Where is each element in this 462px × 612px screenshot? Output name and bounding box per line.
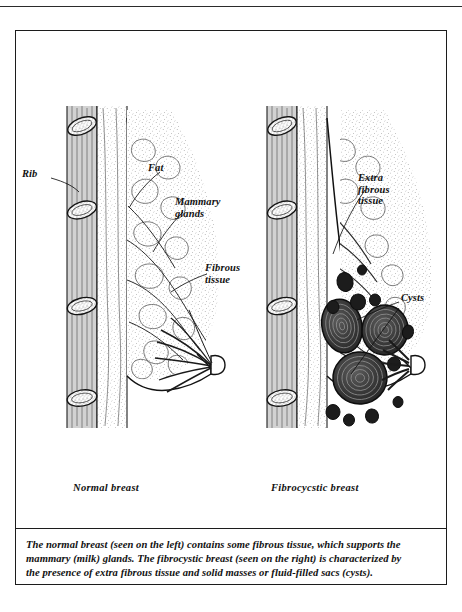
caption-line-2: mammary (milk) glands. The fibrocystic b… <box>26 552 438 566</box>
illustration-page: Rib Fat Mammary glands Fibrous tissue Ex… <box>0 0 462 612</box>
subcaption-normal-breast: Normal breast <box>73 482 139 493</box>
fibrocystic-breast-drawing <box>265 106 433 428</box>
label-cysts: Cysts <box>401 292 424 304</box>
top-rule <box>0 6 462 7</box>
label-fat: Fat <box>148 162 163 174</box>
subcaption-fibrocystic-breast: Fibrocycstic breast <box>271 482 359 493</box>
label-mammary-glands: Mammary glands <box>175 196 221 219</box>
label-fibrous-tissue: Fibrous tissue <box>205 262 240 285</box>
caption-line-3: the presence of extra fibrous tissue and… <box>26 566 438 580</box>
label-extra-fibrous-tissue: Extra fibrous tissue <box>358 172 390 207</box>
figure-caption: The normal breast (seen on the left) con… <box>26 538 438 581</box>
anatomical-drawings <box>15 30 447 585</box>
caption-divider <box>15 528 447 529</box>
figure-area: Rib Fat Mammary glands Fibrous tissue Ex… <box>15 30 447 585</box>
caption-line-1: The normal breast (seen on the left) con… <box>26 538 438 552</box>
label-rib: Rib <box>22 168 37 180</box>
